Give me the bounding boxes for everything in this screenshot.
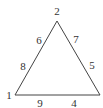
left-edge-label-2: 8 xyxy=(20,60,26,72)
left-edge-label-1: 6 xyxy=(36,34,42,46)
triangle-diagram: 2 1 6 8 7 5 9 4 xyxy=(0,0,103,108)
triangle xyxy=(15,21,100,95)
right-edge-label-2: 5 xyxy=(89,59,95,71)
bottom-edge-label-1: 9 xyxy=(37,97,43,108)
bottom-edge-label-2: 4 xyxy=(71,97,77,108)
vertex-label-bottom-left: 1 xyxy=(6,89,12,101)
vertex-label-top: 2 xyxy=(54,5,60,17)
right-edge-label-1: 7 xyxy=(73,33,79,45)
